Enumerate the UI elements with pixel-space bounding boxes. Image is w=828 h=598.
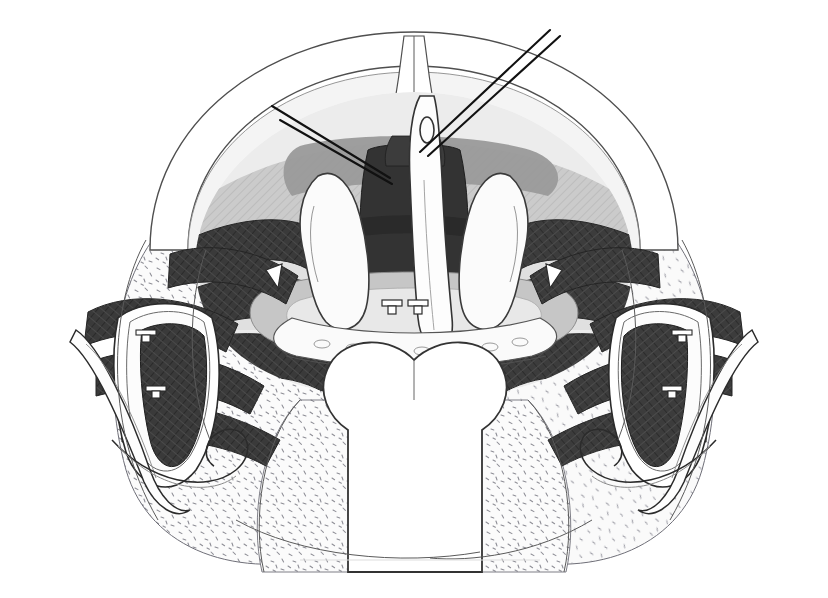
surgical-anatomical-illustration: [0, 0, 828, 598]
illustration-canvas: Retropubic pelvic dissection — anterior …: [0, 0, 828, 598]
retractor-fenestration: [420, 117, 434, 143]
central-organ: [323, 342, 506, 572]
